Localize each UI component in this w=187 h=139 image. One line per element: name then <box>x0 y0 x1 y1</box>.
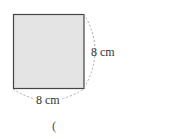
square-diagram <box>0 0 187 139</box>
bottom-length-label: 8 cm <box>35 94 61 106</box>
square-figure-svg <box>0 0 187 139</box>
square-shape <box>14 15 85 89</box>
answer-open-paren: ( <box>52 119 56 132</box>
side-length-label: 8 cm <box>91 46 115 58</box>
